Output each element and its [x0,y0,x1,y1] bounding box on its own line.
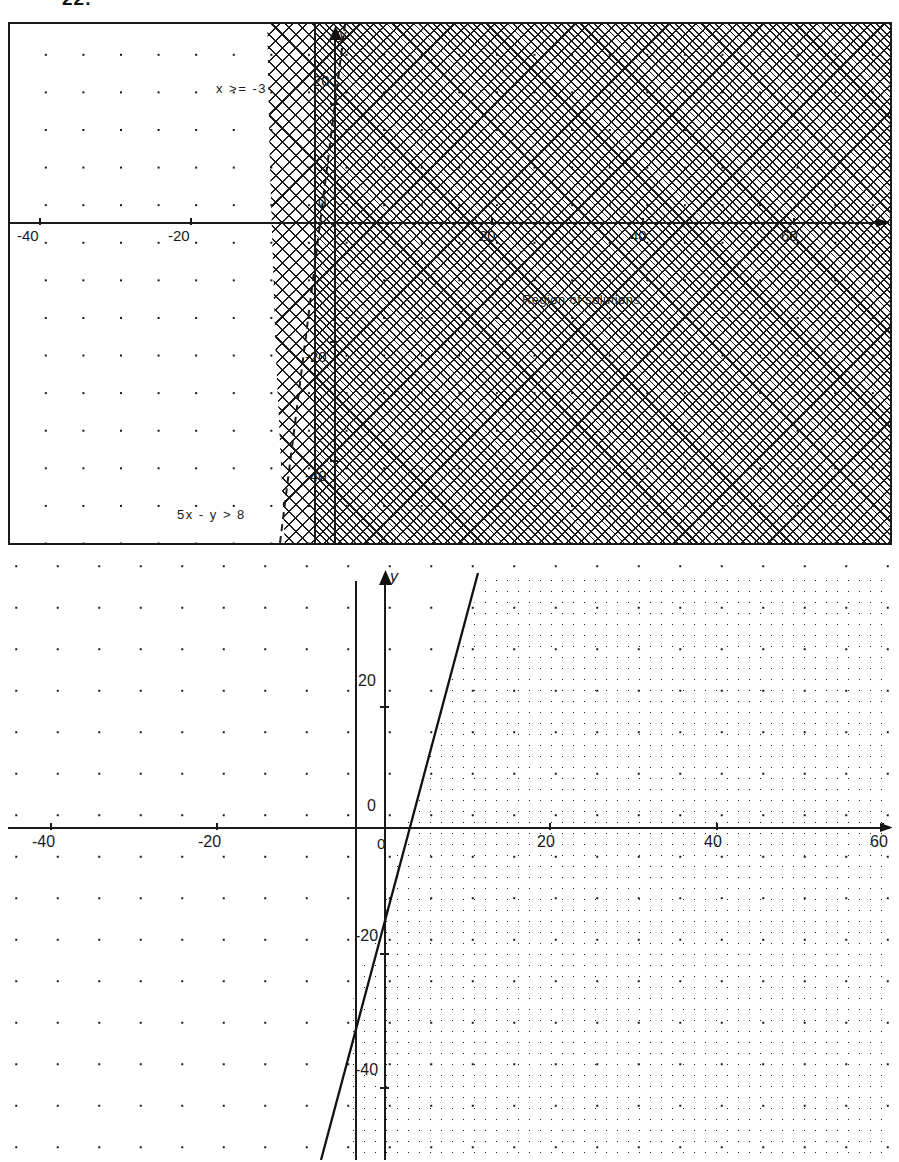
boundary-line-5x-minus-y-eq-8 [303,573,493,1160]
x-tick [190,218,192,225]
annotation-5x-minus-y-gt-8: 5x - y > 8 [177,507,246,522]
combined-system-graph: -40 -20 20 40 60 y 20 0 -20 -40 x >= -3 … [8,22,892,545]
problem-number: 22. [62,0,91,10]
x-tick-label-60: 60 [870,833,888,851]
x-tick [39,218,41,225]
annotation-x-ge-neg3: x >= -3 [216,81,267,96]
x-tick-label-neg40: -40 [17,227,39,244]
x-tick-label-neg20: -20 [168,227,190,244]
x-tick-label-20: 20 [479,227,496,244]
x-tick [793,218,795,225]
x-axis-line [10,222,888,224]
x-tick [882,823,884,830]
x-tick-label-60: 60 [781,227,798,244]
x-axis-arrow-icon [876,214,892,232]
x-tick [716,823,718,830]
x-tick [50,823,52,830]
x-tick-label-20: 20 [537,833,555,851]
single-inequality-graph: -40 -20 20 40 60 y 20 0 -20 -40 0 [8,565,892,1160]
region-5x-minus-y-gt-8-crosshatch [266,24,890,543]
x-tick-label-40: 40 [630,227,647,244]
annotation-region-of-solutions: Region of solutions [522,292,640,307]
x-tick [491,218,493,225]
x-tick-label-neg40: -40 [32,833,55,851]
x-tick-label-40: 40 [704,833,722,851]
x-tick [216,823,218,830]
x-tick [549,823,551,830]
boundary-line-5x-minus-y-eq-8 [260,24,350,543]
x-tick [642,218,644,225]
x-tick-label-neg20: -20 [198,833,221,851]
